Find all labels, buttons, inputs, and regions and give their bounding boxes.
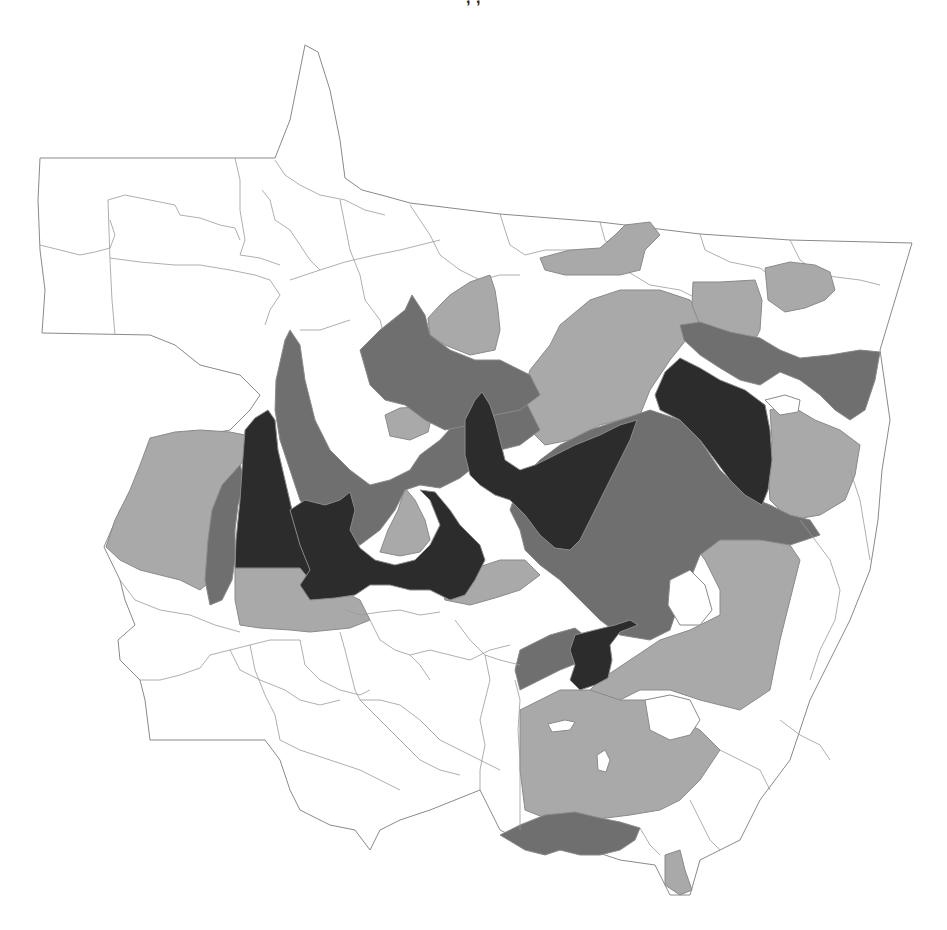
choropleth-map	[0, 0, 947, 930]
